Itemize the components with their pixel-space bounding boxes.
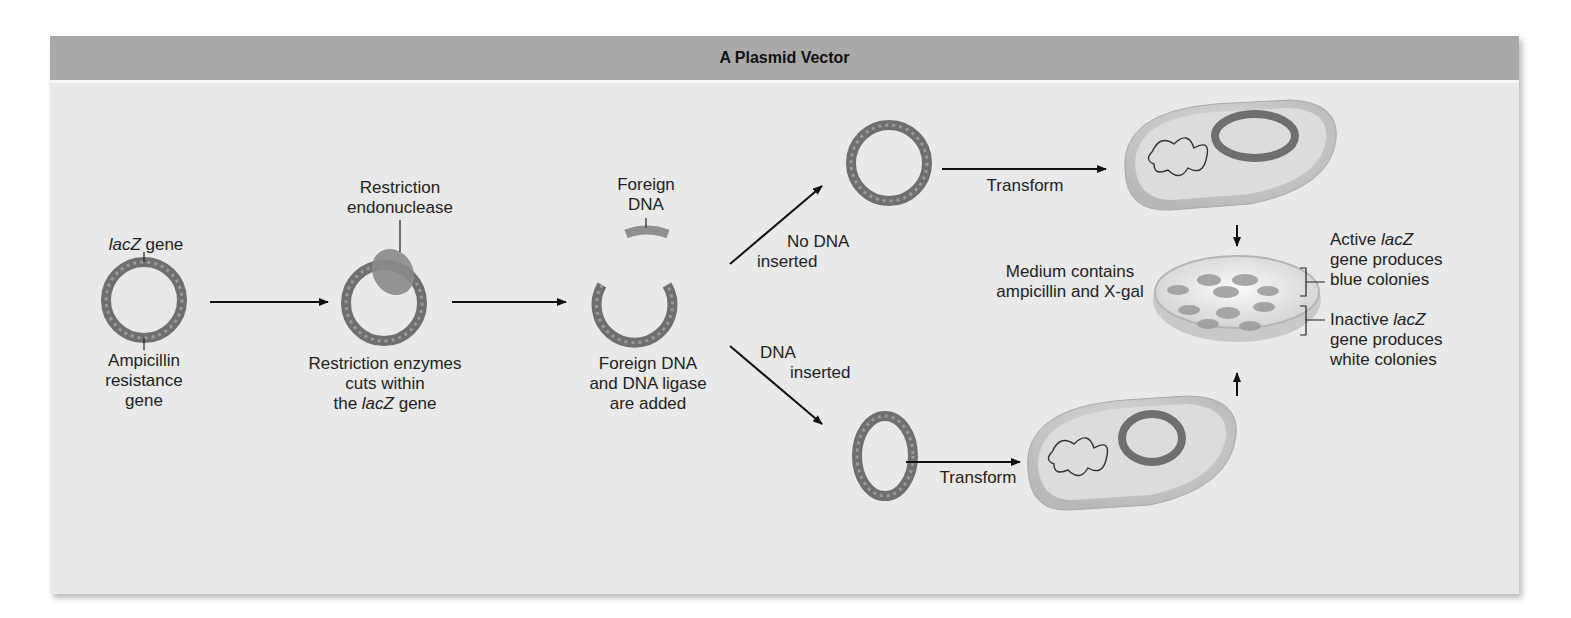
active-lacz-label: Active lacZ gene produces blue colonies [1330,230,1442,290]
plasmid-intact-icon [106,252,182,350]
petri-plate-icon [1153,256,1321,342]
diagram-art [0,0,1571,618]
restriction-cut-label: Restriction enzymes cuts within the lacZ… [295,354,475,414]
ligase-added-label: Foreign DNAand DNA ligaseare added [558,354,738,414]
bacterium-upper-icon [1125,100,1337,210]
foreign-dna-fragment-icon [626,218,668,234]
transform-upper-label: Transform [975,176,1075,196]
ampicillin-resistance-label: Ampicillinresistancegene [84,351,204,411]
foreign-dna-label: ForeignDNA [606,175,686,215]
bacterium-lower-icon [1028,396,1237,510]
restriction-endonuclease-label: Restrictionendonuclease [335,178,465,218]
plasmid-with-insert-icon [857,416,913,496]
lacz-gene-label: lacZ gene [96,235,196,255]
transform-lower-label: Transform [928,468,1028,488]
dna-inserted-label: DNAinserted [760,343,850,383]
plasmid-no-insert-icon [851,125,927,201]
no-dna-inserted-label: No DNAinserted [757,232,849,272]
plasmid-with-enzyme-icon [346,220,422,341]
medium-label: Medium containsampicillin and X-gal [980,262,1160,302]
inactive-lacz-label: Inactive lacZ gene produces white coloni… [1330,310,1442,370]
cut-plasmid-icon [597,285,673,343]
